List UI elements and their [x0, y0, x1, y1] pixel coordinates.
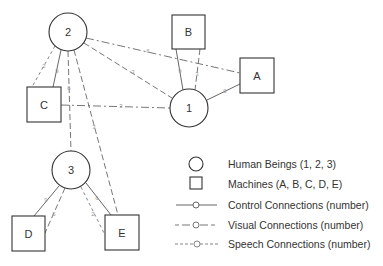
machine-label: D [25, 228, 33, 240]
human-node-3: 3 [52, 151, 90, 189]
connection-B-1-control: 9 [176, 49, 183, 90]
connection-2-E: 3 [74, 50, 118, 215]
legend-item-machine: Machines (A, B, C, D, E) [190, 177, 342, 190]
machine-node-E: E [105, 215, 139, 250]
legend-item-human: Human Beings (1, 2, 3) [189, 157, 336, 171]
legend-item-visual: Visual Connections (number) [175, 219, 363, 231]
square-icon [190, 177, 202, 189]
machine-node-B: B [172, 15, 205, 49]
connection-3-E-control: 6 [86, 183, 111, 215]
connection-label: 9 [55, 68, 59, 74]
legend-text: Speech Connections (number) [228, 238, 370, 250]
legend-text: Human Beings (1, 2, 3) [228, 158, 336, 170]
connection-C-1: 3 [61, 103, 170, 109]
connection-2-3: 6 [67, 51, 71, 151]
circle-icon [189, 157, 203, 171]
connection-label: 6 [52, 211, 56, 217]
connection-label: 3 [92, 124, 96, 130]
connection-1-A: 9 [207, 84, 240, 100]
control-line-icon [176, 202, 217, 208]
connection-label: 9 [223, 88, 227, 94]
visual-line-icon [175, 222, 218, 228]
connection-2-C-speech: 2 [32, 46, 55, 87]
legend-item-control: Control Connections (number) [176, 199, 369, 211]
connection-3-E-speech: 2 [81, 187, 105, 235]
connection-label: 2 [42, 63, 46, 69]
connection-label: 6 [95, 195, 99, 201]
legend-text: Control Connections (number) [228, 199, 369, 211]
machine-label: B [185, 26, 192, 38]
machine-node-C: C [27, 87, 61, 122]
legend-item-speech: Speech Connections (number) [175, 238, 370, 250]
legend: Human Beings (1, 2, 3) Machines (A, B, C… [175, 157, 370, 250]
human-machine-diagram: 6 3 2 9 6 3 3 [0, 0, 383, 266]
legend-text: Visual Connections (number) [228, 219, 363, 231]
human-label: 2 [65, 26, 71, 38]
connection-label: 3 [131, 69, 135, 75]
connection-2-1: 3 [84, 43, 172, 98]
legend-text: Machines (A, B, C, D, E) [228, 178, 342, 190]
connection-label: 9 [178, 68, 182, 74]
human-label: 1 [186, 102, 192, 114]
connection-B-1-visual: 3 [195, 49, 200, 90]
connection-2-A: 6 [86, 38, 240, 73]
machine-node-D: D [12, 216, 45, 251]
machine-label: E [118, 227, 125, 239]
speech-line-icon [175, 241, 218, 247]
machine-label: A [253, 70, 261, 82]
machine-node-A: A [240, 58, 274, 93]
connection-2-C-control: 9 [53, 50, 61, 87]
connection-label: 3 [119, 103, 123, 109]
connection-3-D-visual: 6 [45, 188, 65, 233]
human-node-2: 2 [49, 13, 87, 51]
connection-label: 6 [146, 48, 150, 54]
connection-label: 3 [195, 71, 199, 77]
machine-label: C [40, 99, 48, 111]
human-label: 3 [68, 164, 74, 176]
human-node-1: 1 [170, 89, 208, 127]
connection-label: 6 [67, 85, 71, 91]
